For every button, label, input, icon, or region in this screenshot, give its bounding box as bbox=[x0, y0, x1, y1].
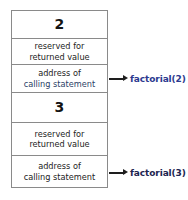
address-label-line1: address of bbox=[38, 68, 81, 79]
reserved-label-line1: reserved for bbox=[35, 41, 85, 52]
stack-frame-address-cell: address of calling statement bbox=[12, 156, 107, 187]
callout-factorial-3: factorial(3) bbox=[108, 167, 186, 179]
arrow-right-icon bbox=[108, 167, 130, 179]
reserved-label-line1: reserved for bbox=[35, 129, 85, 140]
stack-frame-number-cell: 2 bbox=[12, 11, 107, 39]
stack-frame-address-cell: address of calling statement bbox=[12, 65, 107, 93]
callout-label: factorial(2) bbox=[130, 74, 186, 84]
call-stack-diagram: 2 reserved for returned value address of… bbox=[0, 0, 188, 200]
stack-frame-reserved-cell: reserved for returned value bbox=[12, 39, 107, 66]
reserved-label-line2: returned value bbox=[29, 52, 89, 63]
frame-number-value: 3 bbox=[55, 100, 65, 114]
reserved-label-line2: returned value bbox=[29, 139, 89, 150]
callout-factorial-2: factorial(2) bbox=[108, 73, 186, 85]
address-label-line2: calling statement bbox=[24, 172, 96, 183]
address-label-line1: address of bbox=[38, 161, 81, 172]
frame-number-value: 2 bbox=[55, 17, 65, 31]
address-label-line2: calling statement bbox=[24, 79, 96, 90]
stack-box: 2 reserved for returned value address of… bbox=[11, 10, 108, 188]
callout-label: factorial(3) bbox=[130, 168, 186, 178]
stack-frame-number-cell: 3 bbox=[12, 93, 107, 123]
stack-frame-reserved-cell: reserved for returned value bbox=[12, 123, 107, 157]
arrow-right-icon bbox=[108, 73, 130, 85]
